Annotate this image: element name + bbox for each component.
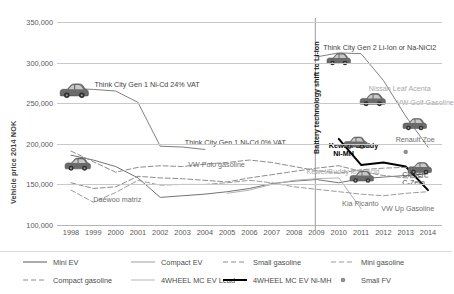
annotation-label: C-Zero — [402, 178, 424, 187]
legend-swatch-icon — [222, 257, 248, 267]
y-tick-label: 100,000 — [26, 221, 53, 230]
y-tick-label: 250,000 — [26, 99, 53, 108]
y-tick-label: 200,000 — [26, 139, 53, 148]
legend-swatch-icon — [330, 257, 356, 267]
annotation-label: Daewoo matriz — [93, 195, 141, 204]
legend-swatch-icon — [130, 275, 156, 285]
chart-legend: Mini EVCompact EVSmall gasolineMini gaso… — [0, 251, 452, 294]
x-tick-label: 2014 — [420, 228, 436, 237]
legend-item-mini-ev[interactable]: Mini EV — [22, 254, 78, 270]
data-point-small-fv — [403, 150, 407, 154]
legend-label: Small FV — [361, 276, 391, 285]
gridline — [57, 103, 442, 104]
y-tick-label: 300,000 — [26, 58, 53, 67]
car-icon-think-city-gen2 — [326, 52, 351, 66]
annotation-label: Nissan Leaf Acenta — [369, 84, 431, 93]
car-icon-nissan-leaf — [358, 92, 387, 107]
y-tick-label: 350,000 — [26, 18, 53, 27]
legend-label: Compact gasoline — [53, 276, 112, 285]
legend-item-mini-gasoline[interactable]: Mini gasoline — [330, 254, 404, 270]
annotation-label: VW Polo gasoline — [188, 160, 245, 169]
x-tick-label: 2002 — [152, 228, 168, 237]
gridline — [57, 184, 442, 185]
x-tick-label: 2013 — [397, 228, 413, 237]
x-tick-label: 1998 — [63, 228, 79, 237]
legend-swatch-icon — [22, 257, 48, 267]
annotation-label: Think City Gen 1 Ni-Cd 0% VAT — [185, 138, 286, 147]
battery-shift-annotation: Battery technology shift to Li-Ion — [312, 41, 321, 154]
x-tick-label: 2005 — [219, 228, 235, 237]
car-icon-kewet-buddy-lead — [349, 169, 374, 184]
y-tick-label: 150,000 — [26, 180, 53, 189]
legend-swatch-icon — [22, 275, 48, 285]
x-tick-label: 2009 — [308, 228, 324, 237]
series-line-mini-ev — [71, 155, 428, 197]
legend-item-small-gasoline[interactable]: Small gasoline — [222, 254, 301, 270]
legend-item-4wheel-mc-ev-lead[interactable]: 4WHEEL MC EV Lead — [130, 272, 235, 288]
x-tick-label: 1999 — [85, 228, 101, 237]
annotation-label: Renault Zoe — [396, 135, 435, 144]
legend-label: Compact EV — [161, 258, 203, 267]
x-tick-label: 2000 — [107, 228, 123, 237]
car-icon-think-city-gen1 — [59, 82, 89, 99]
x-tick-label: 2011 — [353, 228, 369, 237]
annotation-label: Kia Picanto — [342, 199, 378, 208]
plot-area: Vehicle price 2014 NOK Battery technolog… — [57, 22, 442, 225]
legend-label: Small gasoline — [253, 258, 301, 267]
legend-item-small-fv[interactable]: Small FV — [330, 272, 391, 288]
x-tick-label: 2001 — [130, 228, 146, 237]
legend-item-compact-ev[interactable]: Compact EV — [130, 254, 203, 270]
legend-item-compact-gasoline[interactable]: Compact gasoline — [22, 272, 112, 288]
gridline — [57, 63, 442, 64]
x-axis-tick-labels: 1998199920002001200220032004200520062007… — [57, 228, 442, 242]
x-tick-label: 2003 — [174, 228, 190, 237]
legend-label: 4WHEEL MC EV Ni-MH — [253, 276, 332, 285]
x-tick-label: 2006 — [241, 228, 257, 237]
legend-swatch-icon — [222, 275, 248, 285]
y-axis-tick-labels: 100,000150,000200,000250,000300,000350,0… — [0, 22, 53, 225]
legend-divider — [0, 251, 452, 252]
gridline — [57, 22, 442, 23]
legend-swatch-icon — [130, 257, 156, 267]
x-tick-label: 2007 — [264, 228, 280, 237]
legend-row-2: Compact gasoline4WHEEL MC EV Lead4WHEEL … — [0, 272, 452, 288]
annotation-label: Think City Gen 2 Li-Ion or Na-NiCl2 — [323, 43, 436, 52]
annotation-label: VW Up Gasoline — [381, 204, 434, 213]
annotation-label: Ni-MH — [333, 149, 354, 158]
x-tick-label: 2010 — [331, 228, 347, 237]
car-icon-renault-zoe — [401, 117, 428, 131]
legend-item-4wheel-mc-ev-ni-mh[interactable]: 4WHEEL MC EV Ni-MH — [222, 272, 332, 288]
car-icon-mini-ev-1998 — [64, 156, 91, 172]
car-icon-citroen-czero — [407, 161, 432, 175]
legend-row-1: Mini EVCompact EVSmall gasolineMini gaso… — [0, 254, 452, 270]
car-icon-kewet-buddy-nimh — [343, 135, 368, 150]
x-tick-label: 2012 — [375, 228, 391, 237]
legend-label: Mini gasoline — [361, 258, 404, 267]
gridline — [57, 144, 442, 145]
x-axis-line — [57, 225, 442, 226]
legend-swatch-icon — [330, 275, 356, 285]
x-tick-label: 2008 — [286, 228, 302, 237]
annotation-label: Think City Gen 1 Ni-Cd 24% VAT — [94, 80, 199, 89]
legend-label: Mini EV — [53, 258, 78, 267]
x-tick-label: 2004 — [197, 228, 213, 237]
